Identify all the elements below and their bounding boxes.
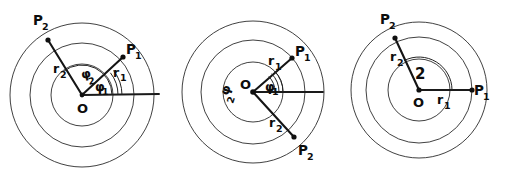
- panel-1-point-p2-dot: [45, 37, 50, 42]
- panel-1-label-r1: r: [113, 65, 120, 80]
- panel-1-label-phi1-subscript: 1: [102, 86, 109, 97]
- panel-1-label-p1-subscript: 1: [135, 50, 142, 61]
- panel-3: P 1 P 2 O r 1 r 2 2: [351, 11, 490, 158]
- panel-2-label-p2-subscript: 2: [307, 151, 314, 162]
- panel-3-label-p2-subscript: 2: [389, 20, 396, 31]
- panel-2-label-r2: r: [269, 115, 276, 130]
- panel-2-label-p1-subscript: 1: [304, 52, 311, 63]
- panel-2-label-r1-subscript: 1: [275, 61, 282, 72]
- panel-3-origin-dot: [416, 87, 421, 92]
- panel-1: P 1 P 2 O r 1 r 2 φ 1 φ 2: [10, 12, 159, 167]
- panel-3-label-r2: r: [390, 49, 397, 64]
- panel-2-label-r1: r: [268, 53, 275, 68]
- panel-1-point-p1-dot: [120, 54, 125, 59]
- panel-1-label-r2-subscript: 2: [60, 69, 67, 80]
- panel-1-label-phi2-subscript: 2: [87, 75, 96, 87]
- panel-3-label-origin: O: [413, 95, 424, 110]
- panel-2-point-p2-dot: [291, 134, 296, 139]
- panel-2-label-r2-subscript: 2: [276, 123, 283, 134]
- panel-2-label-origin: O: [240, 77, 251, 92]
- panel-1-label-p2-subscript: 2: [42, 21, 49, 32]
- panel-3-label-r1: r: [437, 92, 444, 107]
- panel-1-label-r1-subscript: 1: [120, 72, 127, 83]
- panel-1-origin-dot: [80, 93, 85, 98]
- panel-2: P 1 P 2 O r 1 r 2 φ 1 φ 2: [182, 21, 324, 163]
- panel-3-point-p2-dot: [392, 35, 397, 40]
- panel-2-point-p1-dot: [289, 55, 294, 60]
- panel-1-polar-axis: [82, 94, 159, 95]
- panel-3-label-r2-subscript: 2: [397, 57, 404, 68]
- panel-2-label-phi2-subscript: 2: [224, 95, 237, 105]
- panel-3-label-r1-subscript: 1: [444, 100, 451, 111]
- panel-1-label-r2: r: [53, 61, 60, 76]
- panel-2-label-phi2: φ: [217, 83, 234, 97]
- panel-3-label-angle: 2: [415, 65, 425, 83]
- panel-1-label-origin: O: [77, 101, 88, 116]
- panel-2-label-phi1-subscript: 1: [272, 86, 279, 97]
- polar-diagram-figure: P 1 P 2 O r 1 r 2 φ 1 φ 2: [0, 0, 506, 178]
- diagram-canvas: P 1 P 2 O r 1 r 2 φ 1 φ 2: [0, 0, 506, 178]
- panel-3-label-p1-subscript: 1: [483, 91, 490, 102]
